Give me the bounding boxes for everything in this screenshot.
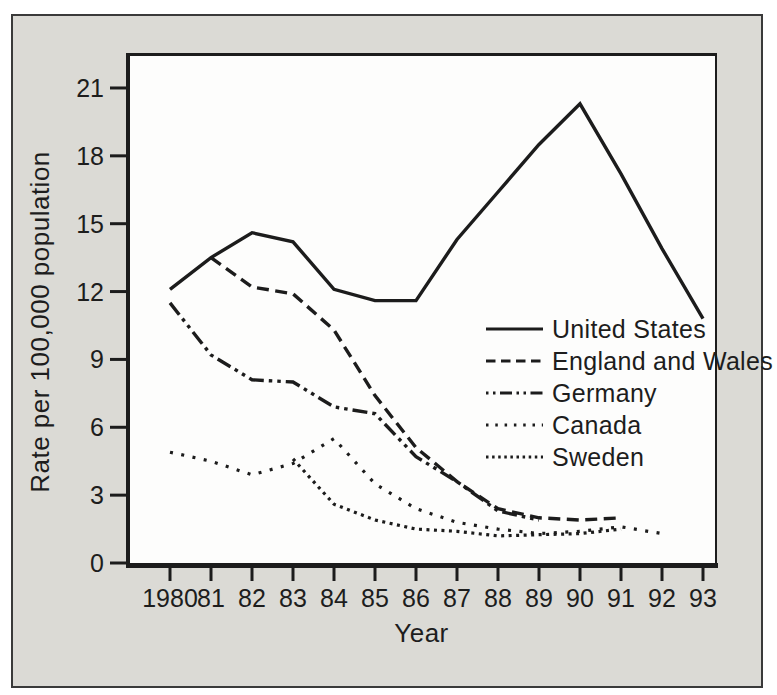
figure: Rate per 100,000 population Year 0369121…: [0, 0, 777, 695]
x-tick-label-93: 93: [671, 584, 735, 612]
legend-line-sample-solid: [486, 322, 543, 336]
legend-item-sweden: Sweden: [486, 441, 773, 473]
legend-item-canada: Canada: [486, 409, 773, 441]
y-tick-label-18: 18: [52, 142, 104, 170]
legend-item-germany: Germany: [486, 377, 773, 409]
legend-line-sample-dotted-sparse: [486, 418, 543, 432]
legend-line-sample-dash-dot-dot: [486, 386, 543, 400]
legend-line-sample-dashed: [486, 354, 543, 368]
y-tick-label-9: 9: [52, 345, 104, 373]
legend-item-england-and-wales: England and Wales: [486, 345, 773, 377]
y-tick-label-6: 6: [52, 413, 104, 441]
legend-label: United States: [552, 315, 706, 344]
y-tick-label-12: 12: [52, 278, 104, 306]
legend-label: Canada: [552, 411, 641, 440]
y-tick-label-15: 15: [52, 210, 104, 238]
legend-label: Germany: [552, 379, 657, 408]
x-axis-title: Year: [126, 618, 717, 649]
legend-item-united-states: United States: [486, 313, 773, 345]
y-tick-label-21: 21: [52, 74, 104, 102]
legend-label: England and Wales: [552, 347, 773, 376]
y-tick-label-3: 3: [52, 481, 104, 509]
plot-area: [126, 53, 717, 568]
y-tick-label-0: 0: [52, 549, 104, 577]
legend-line-sample-dotted-dense: [486, 450, 543, 464]
legend: United StatesEngland and WalesGermanyCan…: [486, 313, 773, 473]
y-axis-title: Rate per 100,000 population: [25, 151, 56, 493]
legend-label: Sweden: [552, 443, 644, 472]
